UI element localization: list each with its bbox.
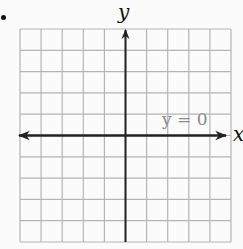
x-axis-label: x <box>233 124 243 144</box>
coordinate-plane-figure: y x y = 0 <box>0 0 243 249</box>
y-axis-label: y <box>118 2 129 22</box>
equation-label: y = 0 <box>162 111 207 128</box>
